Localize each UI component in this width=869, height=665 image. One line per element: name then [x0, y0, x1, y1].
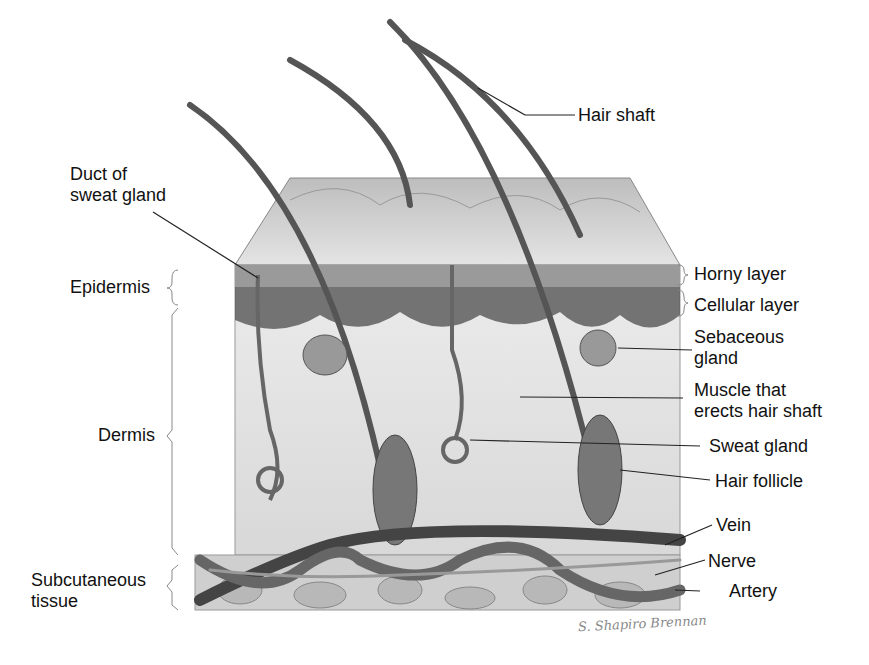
label-horny-layer: Horny layer [694, 264, 786, 285]
label-sebaceous-gland: Sebaceous gland [694, 327, 784, 369]
label-nerve: Nerve [708, 551, 756, 572]
skin-surface [235, 178, 680, 265]
label-hair-follicle: Hair follicle [715, 471, 803, 492]
label-duct-of-sweat-gland: Duct of sweat gland [70, 164, 166, 206]
label-artery: Artery [729, 581, 777, 602]
label-sweat-gland: Sweat gland [709, 436, 808, 457]
label-hair-shaft: Hair shaft [578, 105, 655, 126]
label-vein: Vein [716, 515, 751, 536]
label-epidermis: Epidermis [70, 277, 150, 298]
label-cellular-layer: Cellular layer [694, 295, 799, 316]
label-dermis: Dermis [98, 425, 155, 446]
label-subcutaneous-tissue: Subcutaneous tissue [31, 570, 146, 612]
label-muscle-erects-hair-shaft: Muscle that erects hair shaft [694, 380, 822, 422]
